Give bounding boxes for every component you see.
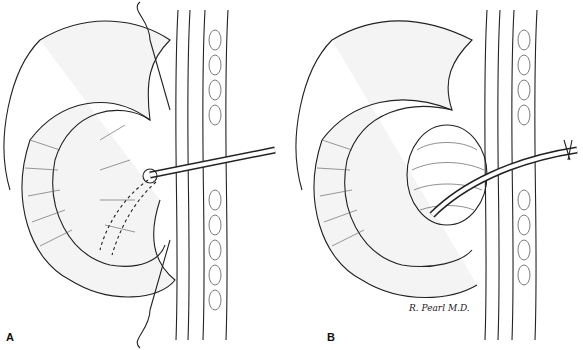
panel-label-b: B xyxy=(327,331,335,343)
figure-panel-a: A xyxy=(0,0,290,350)
illustration-a xyxy=(0,0,290,350)
panel-label-a: A xyxy=(6,331,14,343)
illustration-b xyxy=(292,0,583,350)
figure-panel-b: R. Pearl M.D. B xyxy=(292,0,583,350)
artist-signature: R. Pearl M.D. xyxy=(409,303,470,313)
